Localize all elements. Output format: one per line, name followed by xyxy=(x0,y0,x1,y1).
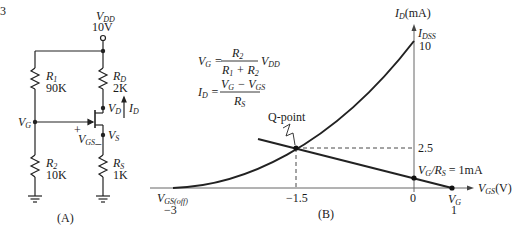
q-point-label: Q-point xyxy=(268,110,306,124)
svg-text:R1 + R2: R1 + R2 xyxy=(221,63,259,78)
svg-text:VG − VGS: VG − VGS xyxy=(221,77,265,92)
chart-caption: (B) xyxy=(318,207,334,221)
svg-text:VG =: VG = xyxy=(198,54,222,69)
r2-resistor-icon xyxy=(31,155,39,177)
circuit-schematic xyxy=(28,36,126,203)
vg-label: VG xyxy=(18,115,31,130)
id-label: ID xyxy=(128,101,139,116)
vg-rs-label: VG/RS = 1mA xyxy=(418,163,483,178)
equation-vg: VG = R2 R1 + R2 VDD xyxy=(198,46,280,78)
x-axis-arrow-icon xyxy=(467,186,474,191)
figure-number: 3 xyxy=(0,4,6,18)
gate-arrow-icon xyxy=(88,120,93,125)
svg-text:ID =: ID = xyxy=(197,85,219,100)
idss-value: 10 xyxy=(419,39,431,53)
svg-text:R2: R2 xyxy=(231,46,243,61)
svg-text:RS: RS xyxy=(233,94,245,109)
vg-marker xyxy=(449,185,454,190)
vg-axis-value: 1 xyxy=(451,203,457,217)
vdd-terminal xyxy=(101,36,106,41)
rs-resistor-icon xyxy=(99,155,107,177)
vgsoff-value: −3 xyxy=(164,203,177,217)
svg-text:VDD: VDD xyxy=(261,54,280,69)
rd-resistor-icon xyxy=(99,68,107,89)
vgs-label: VGS_ xyxy=(78,132,102,147)
q-point-pointer-icon xyxy=(283,124,295,145)
xtick-neg-1-5: −1.5 xyxy=(286,191,308,205)
r2-value: 10K xyxy=(46,168,67,182)
r1-resistor-icon xyxy=(31,68,39,89)
rd-value: 2K xyxy=(113,81,128,95)
figure: 3 VDD 10V R1 90K RD 2K VD ID VG + VGS_ V… xyxy=(0,0,515,234)
vs-label: VS xyxy=(108,128,119,143)
circuit-caption: (A) xyxy=(57,211,74,225)
equation-id: ID = VG − VGS RS xyxy=(197,77,265,109)
y-axis-label: ID(mA) xyxy=(394,6,431,21)
vdd-value: 10V xyxy=(92,20,113,34)
vd-label: VD xyxy=(108,101,121,116)
vg-rs-marker xyxy=(411,175,416,180)
id-arrow-icon xyxy=(122,97,126,102)
rs-value: 1K xyxy=(113,168,128,182)
y-axis-arrow-icon xyxy=(412,24,417,31)
x-axis-label: VGS(V) xyxy=(478,181,512,196)
q-point-marker xyxy=(293,145,298,150)
ytick-2-5: 2.5 xyxy=(418,141,433,155)
xtick-0: 0 xyxy=(410,191,416,205)
r1-value: 90K xyxy=(46,81,67,95)
